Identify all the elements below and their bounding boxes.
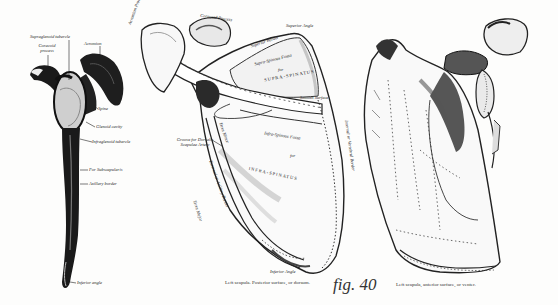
- label-infraglenoid-tubercle: Infraglenoid tubercle: [92, 140, 130, 145]
- label-supraspinous-for: for: [278, 68, 283, 73]
- caption-posterior-view: Left scapula. Posterior surface, or dors…: [225, 280, 310, 285]
- anatomy-plate: Supraglenoid tubercle Coracoid process A…: [0, 0, 558, 305]
- label-inferior-angle: Inferior angle: [77, 281, 102, 286]
- lateral-view-drawing: [30, 40, 123, 288]
- label-supraglenoid-tubercle: Supraglenoid tubercle: [30, 35, 70, 40]
- label-spine: Spine: [98, 107, 108, 112]
- label-acromion: Acromion: [84, 42, 102, 47]
- label-glenoid-cavity: Glenoid cavity: [96, 125, 122, 130]
- caption-anterior-view: Left scapula, anterior surface, or vente…: [396, 282, 476, 287]
- label-smooth-surface: Smooth Surface: [300, 96, 328, 101]
- label-for-subscapularis: For Subscapularis: [89, 168, 122, 173]
- figure-number: fig. 40: [333, 275, 376, 295]
- label-groove-dorsalis-scapulae: Groove for Dorsalis Scapulae Artery: [172, 138, 218, 147]
- label-infraspinous-for: for: [290, 154, 295, 159]
- label-coracoid-process: Coracoid process: [33, 44, 61, 53]
- label-axillary-border: Axillary border: [89, 182, 117, 187]
- label-superior-angle: Superior Angle: [286, 24, 313, 29]
- label-inferior-angle-posterior: Inferior Angle: [270, 270, 296, 275]
- anterior-view-drawing: [364, 19, 527, 273]
